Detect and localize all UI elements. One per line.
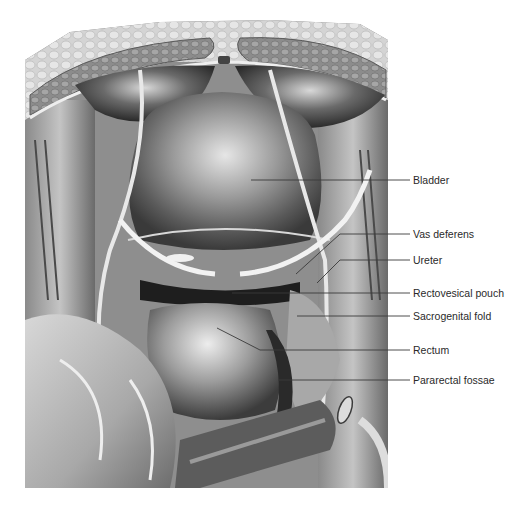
illustration	[25, 20, 388, 490]
anatomical-illustration	[0, 0, 532, 506]
label-rectovesical-pouch: Rectovesical pouch	[413, 287, 504, 299]
label-ureter: Ureter	[413, 254, 442, 266]
figure-caption	[160, 498, 360, 506]
label-sacrogenital-fold: Sacrogenital fold	[413, 310, 491, 322]
label-bladder: Bladder	[413, 174, 449, 186]
label-pararectal-fossae: Pararectal fossae	[413, 374, 495, 386]
bladder	[129, 92, 321, 250]
label-vas-deferens: Vas deferens	[413, 228, 474, 240]
label-rectum: Rectum	[413, 344, 449, 356]
